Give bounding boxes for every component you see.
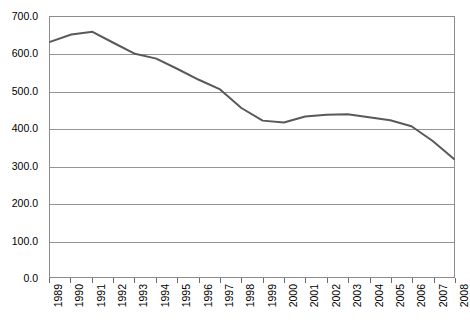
x-axis-tick-label: 2003 [352,284,363,324]
line-chart: 0.0100.0200.0300.0400.0500.0600.0700.0 1… [0,0,470,325]
y-axis-tick-label: 400.0 [0,123,44,133]
x-axis-tick-label: 1994 [160,284,171,324]
x-axis-tickmark [70,278,71,283]
x-axis-tick-label: 1989 [53,284,64,324]
x-axis-tick-label: 2004 [374,284,385,324]
y-axis-tick-label: 600.0 [0,48,44,58]
series-line-layer [50,17,454,277]
x-axis-tick-label: 2006 [416,284,427,324]
x-axis-tickmark [199,278,200,283]
x-axis-tick-label: 2001 [309,284,320,324]
y-axis-tick-label: 0.0 [0,273,44,283]
x-axis-tickmark [284,278,285,283]
x-axis-labels: 1989199019911992199319941995199619971998… [49,284,455,325]
x-axis-tick-label: 1990 [74,284,85,324]
x-axis-tickmark [434,278,435,283]
plot-area [49,16,455,278]
y-axis-tick-label: 700.0 [0,11,44,21]
x-axis-tick-label: 2000 [288,284,299,324]
x-axis-tickmark [177,278,178,283]
x-axis-tickmark [455,278,456,283]
y-axis-tick-label: 300.0 [0,161,44,171]
x-axis-tickmark [92,278,93,283]
x-axis-tickmark [220,278,221,283]
x-axis-tick-label: 1996 [203,284,214,324]
x-axis-tickmark [370,278,371,283]
x-axis-tick-label: 2007 [438,284,449,324]
x-axis-tickmark [348,278,349,283]
x-axis-tickmark [49,278,50,283]
x-axis-tickmark [391,278,392,283]
x-axis-tick-label: 1992 [117,284,128,324]
x-axis-tickmark [241,278,242,283]
x-axis-tickmark [113,278,114,283]
x-axis-tick-label: 1997 [224,284,235,324]
x-axis-tickmark [134,278,135,283]
x-axis-tickmark [412,278,413,283]
x-axis-tick-label: 2002 [331,284,342,324]
series-1-line [50,32,454,159]
x-axis-tick-label: 1991 [96,284,107,324]
x-axis-tick-label: 2008 [459,284,470,324]
x-axis-tickmark [305,278,306,283]
y-axis-tick-label: 500.0 [0,86,44,96]
y-axis-tick-label: 200.0 [0,198,44,208]
x-axis-tickmark [327,278,328,283]
y-axis-labels: 0.0100.0200.0300.0400.0500.0600.0700.0 [0,0,44,325]
x-axis-tick-label: 1993 [138,284,149,324]
x-axis-tick-label: 2005 [395,284,406,324]
y-axis-tick-label: 100.0 [0,236,44,246]
x-axis-tick-label: 1999 [267,284,278,324]
x-axis-tick-label: 1998 [245,284,256,324]
x-axis-tickmark [156,278,157,283]
x-axis-tick-label: 1995 [181,284,192,324]
x-axis-tickmark [263,278,264,283]
